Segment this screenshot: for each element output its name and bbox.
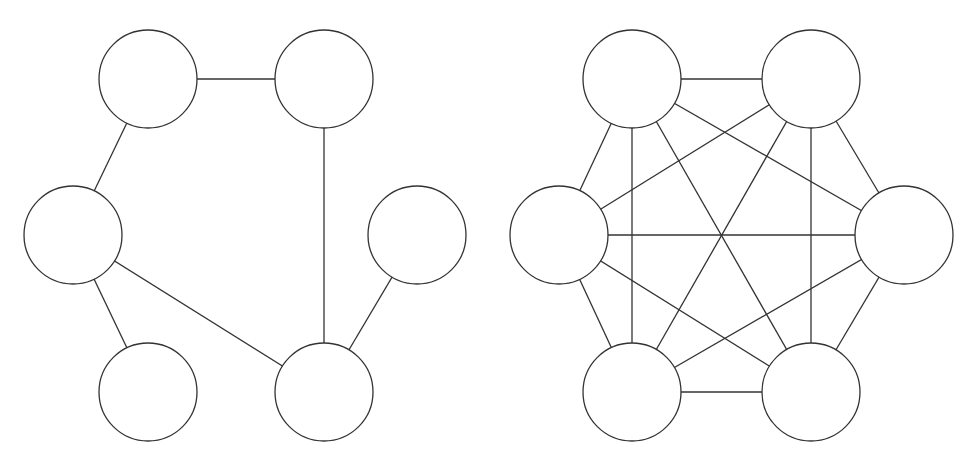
complete-graph-edges <box>559 79 904 392</box>
sparse-graph-nodes <box>24 30 466 441</box>
node-bl <box>99 343 197 441</box>
node-tl <box>583 30 681 128</box>
graph-diagram-canvas <box>0 0 969 468</box>
node-bl <box>583 343 681 441</box>
sparse-graph <box>24 30 466 441</box>
node-tl <box>99 30 197 128</box>
node-tr <box>762 30 860 128</box>
node-tr <box>275 30 373 128</box>
sparse-graph-edges <box>73 79 417 392</box>
node-mr <box>368 186 466 284</box>
node-ml <box>24 186 122 284</box>
complete-graph-k6 <box>510 30 953 441</box>
node-mr <box>855 186 953 284</box>
node-br <box>762 343 860 441</box>
node-br <box>275 343 373 441</box>
node-ml <box>510 186 608 284</box>
